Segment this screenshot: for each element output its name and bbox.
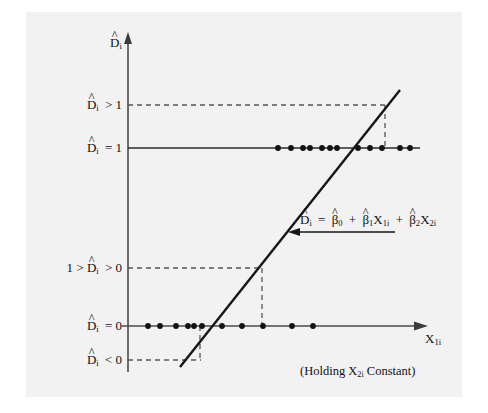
tick-label-dhat-gt-1: ^Di > 1 — [40, 98, 122, 113]
data-point — [191, 323, 197, 329]
data-point — [219, 323, 225, 329]
data-point — [288, 145, 294, 151]
data-point — [185, 323, 191, 329]
tick-label-dhat-eq-0: ^Di = 0 — [40, 319, 122, 334]
eq-b0-sub: 0 — [338, 218, 342, 228]
tick-hat: ^ — [89, 91, 95, 103]
data-point — [397, 145, 403, 151]
x-axis-arrowhead — [414, 322, 428, 331]
tick-rel: > 0 — [105, 260, 122, 275]
data-point — [239, 323, 245, 329]
eq-x2-sub: 2i — [430, 218, 437, 228]
data-point — [289, 323, 295, 329]
x-axis-title-sub: 1i — [434, 337, 441, 347]
eq-b2-hat: ^ — [410, 206, 416, 218]
tick-label-dhat-eq-1: ^Di = 1 — [40, 141, 122, 156]
tick-rel: = 0 — [105, 318, 122, 333]
data-point — [145, 323, 151, 329]
tick-label-dhat-lt-0: ^Di < 0 — [40, 353, 122, 368]
note-tail: Constant) — [364, 364, 416, 378]
data-point — [300, 145, 306, 151]
eq-x1-base: X — [373, 212, 382, 227]
data-point — [173, 323, 179, 329]
x-axis-title-base: X — [425, 331, 434, 346]
data-point — [275, 145, 281, 151]
data-point — [355, 145, 361, 151]
tick-hat: ^ — [89, 346, 95, 358]
eq-b0-hat: ^ — [332, 206, 338, 218]
holding-constant-note: (Holding X2i Constant) — [300, 365, 415, 380]
eq-plus-2: + — [396, 212, 403, 227]
data-point — [327, 145, 333, 151]
note-prefix: (Holding X — [300, 364, 357, 378]
data-point — [407, 145, 413, 151]
figure-root: ^Di X1i ^Di > 1 ^Di = 1 1 > ^Di > 0 ^Di … — [0, 0, 488, 413]
data-point — [319, 145, 325, 151]
data-point — [260, 323, 266, 329]
y-axis-title-sub: i — [119, 41, 121, 51]
regression-equation-annotation: ^Di = ^β0 + ^β1X1i + ^β2X2i — [300, 213, 436, 228]
data-point — [379, 145, 385, 151]
tick-hat: ^ — [89, 312, 95, 324]
tick-rel: < 0 — [105, 352, 122, 367]
tick-hat: ^ — [89, 254, 95, 266]
data-point — [307, 145, 313, 151]
data-point — [367, 145, 373, 151]
eq-lhs-hat: ^ — [302, 206, 308, 218]
tick-label-dhat-between-0-and-1: 1 > ^Di > 0 — [22, 261, 122, 276]
tick-rel: > 1 — [105, 97, 122, 112]
data-point — [334, 145, 340, 151]
x-axis-title: X1i — [425, 332, 441, 347]
y-axis-title: ^Di — [110, 36, 122, 51]
tick-prefix: 1 > — [67, 260, 87, 275]
data-point — [157, 323, 163, 329]
eq-b1-hat: ^ — [363, 206, 369, 218]
data-point — [310, 323, 316, 329]
eq-x2-base: X — [420, 212, 429, 227]
tick-hat: ^ — [89, 134, 95, 146]
y-axis-arrowhead — [124, 32, 132, 44]
tick-rel: = 1 — [105, 140, 122, 155]
data-point — [199, 323, 205, 329]
y-axis-title-hat: ^ — [112, 29, 118, 41]
